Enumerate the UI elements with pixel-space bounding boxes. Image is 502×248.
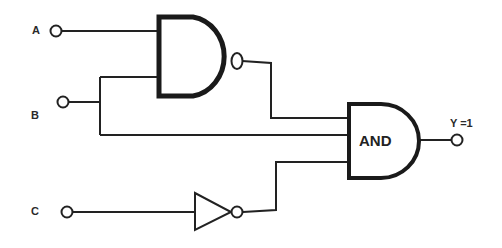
output-y-label: Y =1 (450, 117, 473, 129)
not-gate (195, 193, 231, 230)
wire-not-out (243, 162, 349, 212)
input-b-terminal (58, 97, 69, 108)
input-a-terminal (51, 26, 62, 37)
circuit-canvas (0, 0, 502, 248)
nand-bubble (232, 53, 243, 69)
input-a-label: A (32, 24, 40, 36)
input-c-label: C (31, 205, 39, 217)
nand-gate (159, 17, 224, 96)
and-gate-label: AND (359, 132, 392, 149)
input-b-label: B (31, 109, 39, 121)
input-c-terminal (62, 207, 73, 218)
not-bubble (232, 207, 243, 218)
wire-nand-out (242, 61, 349, 118)
output-y-terminal (452, 135, 463, 146)
